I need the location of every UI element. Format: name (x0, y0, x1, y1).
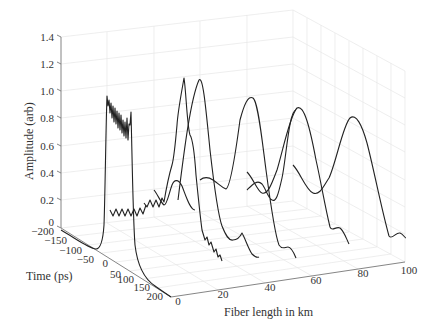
time-tick: 0 (103, 257, 109, 269)
z-tick-labels: 1.4 1.2 1.0 0.8 0.6 0.4 0.2 0 (40, 31, 54, 228)
z-axis-title: Amplitude (arb) (22, 102, 36, 180)
z-tick: 1.0 (40, 85, 54, 97)
time-tick: 100 (118, 273, 135, 285)
fiber-tick: 80 (358, 267, 370, 279)
z-tick: 0.6 (40, 140, 54, 152)
z-tick: 1.4 (40, 31, 54, 43)
fiber-tick: 100 (401, 264, 418, 276)
curve-40km (154, 80, 259, 258)
z-tick: 1.2 (40, 58, 54, 70)
z-tick: 0.8 (40, 112, 54, 124)
curve-0km (61, 96, 171, 297)
fiber-axis-title: Fiber length in km (224, 305, 314, 319)
curve-100km (293, 117, 406, 238)
fiber-tick: 60 (311, 274, 323, 286)
fiber-tick: 40 (265, 281, 277, 293)
time-axis-title: Time (ps) (26, 269, 73, 283)
z-tick: 0.2 (40, 194, 54, 206)
axes (57, 35, 405, 297)
fiber-axis-line (171, 262, 405, 297)
time-tick: 200 (147, 290, 164, 302)
curve-0km-tail (110, 205, 146, 216)
grid (61, 10, 405, 290)
fiber-tick: 0 (175, 295, 181, 307)
fiber-tick-labels: 0 20 40 60 80 100 (175, 264, 418, 307)
curve-60km (200, 97, 296, 258)
waterfall-chart: 1.4 1.2 1.0 0.8 0.6 0.4 0.2 0 −200 −150 … (0, 0, 443, 323)
time-tick: −50 (77, 253, 95, 265)
z-tick: 0.4 (40, 167, 54, 179)
time-tick-labels: −200 −150 −100 −50 0 50 100 150 200 (31, 225, 163, 302)
fiber-tick: 20 (218, 288, 230, 300)
